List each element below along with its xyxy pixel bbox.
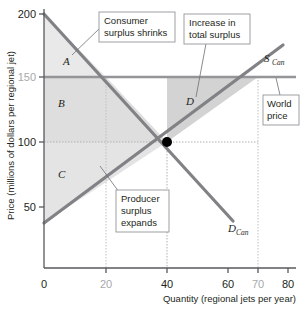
annotation-consumer-surplus: Consumer surplus shrinks	[99, 12, 175, 42]
y-axis-title: Price (millions of dollars per regional …	[5, 51, 16, 220]
annotation-producer-surplus: Producer surplus expands	[116, 190, 169, 232]
annotation-total-surplus-line1: Increase in	[189, 17, 235, 28]
annotation-producer-surplus-line2: surplus	[121, 205, 152, 216]
region-label-C: C	[58, 168, 66, 180]
annotation-consumer-surplus-line1: Consumer	[104, 15, 148, 26]
x-axis-title: Quantity (regional jets per year)	[163, 293, 296, 304]
region-label-B: B	[58, 97, 65, 109]
annotation-world-price-line1: World	[267, 98, 292, 109]
supply-curve-label: S	[264, 52, 270, 64]
x-tick-label-60: 60	[222, 278, 234, 290]
leader-line-consumer-surplus	[72, 28, 100, 55]
annotation-world-price: World price	[263, 95, 299, 125]
annotation-total-surplus-line2: total surplus	[189, 29, 240, 40]
x-tick-label-40: 40	[161, 278, 173, 290]
chart-svg: 200 150 100 50 0 20 40 60 70 80 Price (m…	[0, 0, 302, 310]
y-tick-label-100: 100	[18, 136, 36, 148]
equilibrium-point	[162, 137, 172, 147]
annotation-producer-surplus-line1: Producer	[121, 193, 160, 204]
annotation-world-price-line2: price	[267, 110, 288, 121]
demand-curve-label: D	[227, 222, 236, 234]
y-tick-label-200: 200	[18, 8, 36, 20]
region-D-shape	[167, 77, 258, 142]
x-tick-label-20: 20	[100, 278, 112, 290]
annotation-consumer-surplus-line2: surplus shrinks	[104, 27, 168, 38]
leader-line-world-price	[276, 78, 280, 95]
supply-curve-sublabel: Can	[272, 58, 285, 67]
region-label-A: A	[62, 55, 70, 67]
annotation-total-surplus: Increase in total surplus	[184, 14, 250, 44]
chart-figure: 200 150 100 50 0 20 40 60 70 80 Price (m…	[0, 0, 302, 310]
demand-curve-sublabel: Can	[236, 228, 249, 237]
annotation-producer-surplus-line3: expands	[121, 217, 157, 228]
y-tick-label-50: 50	[24, 201, 36, 213]
x-tick-label-70: 70	[252, 278, 264, 290]
x-tick-label-0: 0	[41, 278, 47, 290]
y-tick-label-150: 150	[18, 71, 36, 83]
region-label-D: D	[185, 95, 194, 107]
x-tick-label-80: 80	[282, 278, 294, 290]
